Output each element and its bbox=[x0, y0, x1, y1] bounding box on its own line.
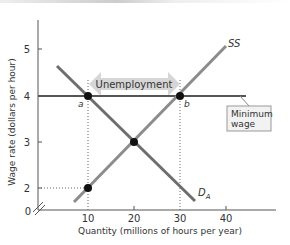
point-b-label: b bbox=[184, 99, 190, 109]
y-ticks bbox=[38, 49, 42, 188]
supply-curve bbox=[74, 46, 226, 202]
equilibrium-point bbox=[130, 138, 138, 146]
x-tick-30: 30 bbox=[174, 213, 187, 224]
point-b bbox=[176, 92, 184, 100]
callout-leader bbox=[240, 96, 250, 107]
y-tick-2: 2 bbox=[24, 183, 30, 194]
minimum-wage-label-1: Minimum bbox=[231, 109, 273, 119]
y-tick-4: 4 bbox=[24, 91, 30, 102]
point-a bbox=[84, 92, 92, 100]
y-axis-title: Wage rate (dollars per hour) bbox=[7, 58, 17, 186]
x-tick-10: 10 bbox=[82, 213, 95, 224]
point-a-label: a bbox=[78, 99, 84, 109]
point-w2-q10 bbox=[84, 184, 92, 192]
minimum-wage-label-2: wage bbox=[231, 119, 256, 129]
labor-market-chart: 5 4 3 2 0 10 20 30 40 Wage rate (dollars… bbox=[0, 0, 290, 245]
x-tick-40: 40 bbox=[220, 213, 233, 224]
origin-label: 0 bbox=[25, 206, 31, 217]
supply-label: SS bbox=[228, 38, 241, 49]
y-tick-5: 5 bbox=[24, 44, 30, 55]
unemployment-label: Unemployment bbox=[96, 79, 173, 90]
y-tick-3: 3 bbox=[24, 137, 30, 148]
demand-label: DA bbox=[198, 187, 211, 201]
x-axis-title: Quantity (millions of hours per year) bbox=[78, 226, 242, 236]
x-tick-20: 20 bbox=[128, 213, 141, 224]
